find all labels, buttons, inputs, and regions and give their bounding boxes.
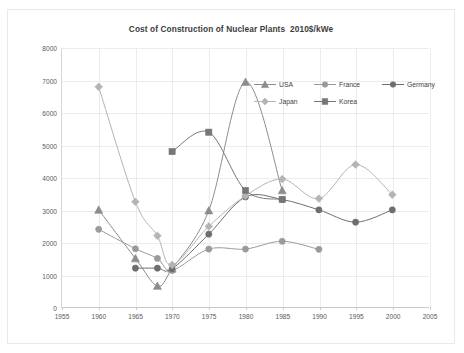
- data-point: [206, 246, 212, 252]
- x-axis-tick: 1990: [312, 313, 327, 320]
- legend-item-germany[interactable]: Germany: [381, 80, 435, 89]
- series-korea: [169, 129, 285, 203]
- square-marker-icon: [313, 97, 337, 106]
- legend-label: USA: [279, 80, 293, 89]
- data-point: [132, 246, 138, 252]
- data-point: [205, 207, 213, 214]
- x-axis-tick: 2000: [386, 313, 401, 320]
- data-point: [278, 186, 286, 193]
- legend-item-usa[interactable]: USA: [253, 80, 313, 89]
- data-point: [242, 187, 248, 193]
- data-point: [132, 265, 138, 271]
- legend-item-france[interactable]: France: [313, 80, 381, 89]
- y-axis-tick: 3000: [42, 207, 57, 214]
- legend-row: JapanKorea: [253, 97, 448, 106]
- x-axis-tick: 1980: [239, 313, 254, 320]
- data-point: [279, 238, 285, 244]
- data-point: [316, 207, 322, 213]
- data-point: [242, 246, 248, 252]
- chart-legend: USAFranceGermanyJapanKorea: [253, 80, 448, 114]
- x-axis-tick: 1995: [349, 313, 364, 320]
- diamond-marker-icon: [253, 97, 277, 106]
- x-axis-tick: 1960: [91, 313, 106, 320]
- data-point: [206, 129, 212, 135]
- y-axis-tick: 5000: [42, 142, 57, 149]
- data-point: [389, 207, 395, 213]
- y-axis-tick: 2000: [42, 240, 57, 247]
- data-point: [95, 206, 103, 213]
- data-point: [206, 231, 212, 237]
- y-axis-tick: 6000: [42, 110, 57, 117]
- data-point: [154, 232, 162, 240]
- chart-container: Cost of Construction of Nuclear Plants 2…: [7, 9, 455, 344]
- legend-row: USAFranceGermany: [253, 80, 448, 89]
- x-axis-tick-mark: [356, 307, 357, 310]
- triangle-marker-icon: [253, 80, 277, 89]
- legend-item-korea[interactable]: Korea: [313, 97, 357, 106]
- series-line: [172, 131, 282, 199]
- data-point: [353, 219, 359, 225]
- y-axis-tick: 7000: [42, 77, 57, 84]
- data-point: [352, 161, 360, 169]
- x-axis-tick-mark: [172, 307, 173, 310]
- legend-label: Korea: [339, 97, 357, 106]
- data-point: [95, 83, 103, 91]
- x-axis-tick: 1955: [55, 313, 70, 320]
- x-axis-tick: 1985: [275, 313, 290, 320]
- y-axis-tick: 8000: [42, 45, 57, 52]
- circle-marker-icon: [313, 80, 337, 89]
- series-germany: [132, 194, 395, 272]
- data-point: [154, 255, 160, 261]
- x-axis-tick-mark: [246, 307, 247, 310]
- legend-label: Japan: [279, 97, 298, 106]
- legend-item-japan[interactable]: Japan: [253, 97, 313, 106]
- x-axis-tick: 1965: [128, 313, 143, 320]
- data-point: [96, 226, 102, 232]
- x-axis-tick: 1970: [165, 313, 180, 320]
- x-axis-tick-mark: [209, 307, 210, 310]
- data-point: [279, 196, 285, 202]
- x-axis-tick: 1975: [202, 313, 217, 320]
- data-point: [316, 246, 322, 252]
- data-point: [154, 265, 160, 271]
- data-point: [169, 149, 175, 155]
- y-axis-tick: 0: [53, 305, 57, 312]
- x-axis-tick-mark: [99, 307, 100, 310]
- circle-marker-icon: [381, 80, 405, 89]
- x-axis-tick-mark: [283, 307, 284, 310]
- x-axis-tick-mark: [430, 307, 431, 310]
- data-point: [315, 195, 323, 203]
- x-axis-tick-mark: [393, 307, 394, 310]
- legend-label: Germany: [407, 80, 435, 89]
- x-axis-tick-mark: [136, 307, 137, 310]
- y-axis-tick: 4000: [42, 175, 57, 182]
- series-line: [135, 195, 392, 272]
- chart-title: Cost of Construction of Nuclear Plants 2…: [8, 24, 454, 34]
- legend-label: France: [339, 80, 360, 89]
- x-axis-tick-mark: [62, 307, 63, 310]
- data-point: [132, 198, 140, 206]
- x-axis-tick: 2005: [423, 313, 438, 320]
- data-point: [241, 78, 249, 85]
- x-axis-tick-mark: [320, 307, 321, 310]
- y-axis-tick: 1000: [42, 272, 57, 279]
